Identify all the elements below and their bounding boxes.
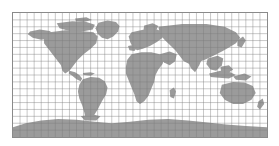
world-map-figure (12, 12, 268, 138)
world-map-landmasses (13, 13, 267, 137)
